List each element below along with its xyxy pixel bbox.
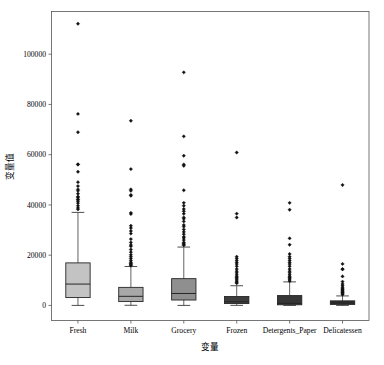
x-axis-title: 变量 <box>201 341 219 352</box>
box-group-fresh <box>66 22 90 305</box>
box-iqr <box>172 279 196 300</box>
outlier-marker <box>76 180 79 183</box>
outlier-marker <box>182 154 185 157</box>
y-tick-label: 60000 <box>27 150 46 159</box>
y-tick-label: 20000 <box>27 251 46 260</box>
outlier-marker <box>288 237 291 240</box>
outlier-marker <box>341 262 344 265</box>
outlier-marker <box>288 243 291 246</box>
outlier-marker <box>182 212 185 215</box>
y-axis-title: 变量值 <box>4 153 15 180</box>
outlier-marker <box>341 275 344 278</box>
outlier-marker <box>182 71 185 74</box>
outlier-marker <box>129 237 132 240</box>
outlier-marker <box>288 208 291 211</box>
outlier-marker <box>129 119 132 122</box>
outlier-marker <box>76 184 79 187</box>
outlier-marker <box>182 220 185 223</box>
box-group-delicatessen <box>330 183 354 305</box>
outlier-marker <box>235 212 238 215</box>
y-tick-label: 80000 <box>27 100 46 109</box>
outlier-marker <box>76 163 79 166</box>
box-group-frozen <box>225 151 249 306</box>
outlier-marker <box>235 151 238 154</box>
y-tick-label: 100000 <box>23 50 46 59</box>
box-group-detergents_paper <box>277 201 301 305</box>
box-iqr <box>119 287 143 301</box>
plot-frame <box>52 12 370 321</box>
outlier-marker <box>341 268 344 271</box>
outlier-marker <box>182 204 185 207</box>
x-tick-label: Detergents_Paper <box>263 326 317 335</box>
boxplot-figure: 020000400006000080000100000FreshMilkGroc… <box>0 0 384 365</box>
x-tick-label: Delicatessen <box>323 326 362 335</box>
outlier-marker <box>341 183 344 186</box>
outlier-marker <box>76 131 79 134</box>
outlier-marker <box>129 232 132 235</box>
outlier-marker <box>76 170 79 173</box>
outlier-marker <box>182 189 185 192</box>
x-tick-label: Fresh <box>70 326 87 335</box>
x-tick-label: Frozen <box>226 326 247 335</box>
outlier-marker <box>76 112 79 115</box>
box-group-milk <box>119 119 143 305</box>
box-iqr <box>225 296 249 303</box>
outlier-marker <box>76 22 79 25</box>
box-iqr <box>66 263 90 298</box>
outlier-marker <box>129 167 132 170</box>
y-tick-label: 40000 <box>27 201 46 210</box>
outlier-marker <box>182 135 185 138</box>
boxplot-canvas: 020000400006000080000100000FreshMilkGroc… <box>0 0 384 365</box>
x-tick-label: Milk <box>123 326 138 335</box>
outlier-marker <box>288 201 291 204</box>
x-tick-label: Grocery <box>171 326 196 335</box>
outlier-marker <box>235 216 238 219</box>
y-tick-label: 0 <box>42 301 46 310</box>
box-group-grocery <box>172 71 196 306</box>
